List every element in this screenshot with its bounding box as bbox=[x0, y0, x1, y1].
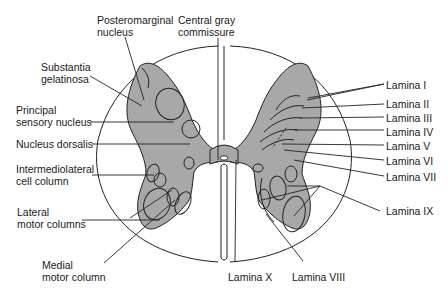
label-lamina-1: Lamina I bbox=[386, 79, 426, 91]
label-lamina-3: Lamina III bbox=[386, 112, 432, 124]
label-line: Substantia bbox=[41, 61, 91, 73]
central-canal bbox=[220, 156, 228, 160]
label-line: Medial bbox=[42, 259, 106, 271]
label-lamina-4: Lamina IV bbox=[386, 126, 433, 138]
label-lamina-10: Lamina X bbox=[228, 271, 272, 283]
label-line: gelatinosa bbox=[41, 73, 91, 85]
label-line: nucleus bbox=[97, 26, 173, 38]
label-line: commissure bbox=[178, 26, 235, 38]
label-lamina-9: Lamina IX bbox=[386, 205, 433, 217]
label-line: sensory nucleus bbox=[16, 116, 92, 128]
label-medial-motor-column: Medial motor column bbox=[42, 259, 106, 283]
label-lamina-7: Lamina VII bbox=[386, 171, 436, 183]
label-line: Posteromarginal bbox=[97, 14, 173, 26]
label-lamina-8: Lamina VIII bbox=[292, 271, 345, 283]
label-substantia-gelatinosa: Substantia gelatinosa bbox=[41, 61, 91, 85]
label-lamina-5: Lamina V bbox=[386, 140, 430, 152]
label-principal-sensory-nucleus: Principal sensory nucleus bbox=[16, 104, 92, 128]
label-line: Lateral bbox=[17, 206, 86, 218]
label-nucleus-dorsalis: Nucleus dorsalis bbox=[16, 138, 93, 150]
label-line: motor column bbox=[42, 271, 106, 283]
label-lamina-2: Lamina II bbox=[386, 98, 429, 110]
label-line: Intermediolateral bbox=[16, 163, 94, 175]
label-line: Central gray bbox=[178, 14, 235, 26]
label-posteromarginal-nucleus: Posteromarginal nucleus bbox=[97, 14, 173, 38]
label-lateral-motor-columns: Lateral motor columns bbox=[17, 206, 86, 230]
label-line: cell column bbox=[16, 175, 94, 187]
label-intermediolateral-cell-column: Intermediolateral cell column bbox=[16, 163, 94, 187]
label-lamina-6: Lamina VI bbox=[386, 155, 433, 167]
label-central-gray-commissure: Central gray commissure bbox=[178, 14, 235, 38]
label-line: Principal bbox=[16, 104, 92, 116]
label-line: motor columns bbox=[17, 218, 86, 230]
